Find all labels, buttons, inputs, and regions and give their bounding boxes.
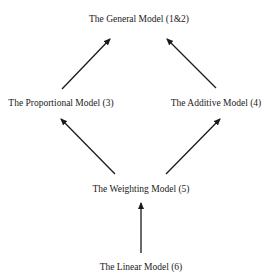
model-hierarchy-diagram: The General Model (1&2) The Proportional… [0, 0, 274, 280]
arrow-weighting-to-proportional [61, 119, 115, 174]
node-general-model: The General Model (1&2) [89, 15, 189, 25]
arrows-layer [0, 0, 274, 280]
node-proportional-model: The Proportional Model (3) [8, 99, 113, 109]
node-additive-model: The Additive Model (4) [171, 99, 262, 109]
node-linear-model: The Linear Model (6) [100, 263, 183, 273]
arrow-proportional-to-general [62, 39, 110, 89]
node-weighting-model: The Weighting Model (5) [93, 185, 190, 195]
arrow-additive-to-general [167, 39, 216, 88]
arrow-weighting-to-additive [166, 119, 220, 174]
